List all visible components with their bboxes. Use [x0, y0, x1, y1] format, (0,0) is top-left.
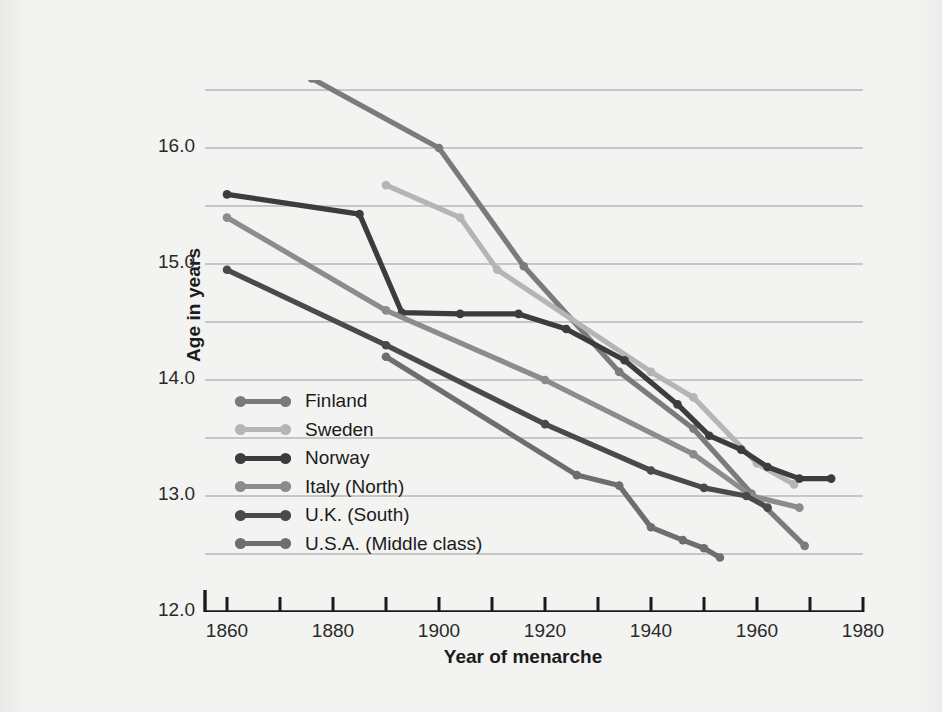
- chart-legend: FinlandSwedenNorwayItaly (North)U.K. (So…: [235, 387, 482, 558]
- y-tick-label: 15.0: [133, 251, 195, 273]
- legend-color-swatch: [235, 423, 291, 437]
- legend-item-label: U.K. (South): [305, 504, 410, 526]
- legend-item-label: Italy (North): [305, 476, 404, 498]
- legend-item-finland[interactable]: Finland: [235, 387, 482, 416]
- x-tick-label: 1960: [717, 620, 797, 642]
- y-tick-label: 16.0: [133, 135, 195, 157]
- legend-color-swatch: [235, 508, 291, 522]
- x-tick-label: 1900: [399, 620, 479, 642]
- axis-layer: [205, 590, 863, 612]
- legend-color-swatch: [235, 537, 291, 551]
- x-tick-label: 1860: [187, 620, 267, 642]
- legend-item-label: Finland: [305, 390, 367, 412]
- x-tick-label: 1920: [505, 620, 585, 642]
- legend-item-label: Sweden: [305, 419, 374, 441]
- y-tick-label: 13.0: [133, 483, 195, 505]
- legend-item-norway[interactable]: Norway: [235, 444, 482, 473]
- legend-color-swatch: [235, 480, 291, 494]
- legend-color-swatch: [235, 451, 291, 465]
- legend-item-label: Norway: [305, 447, 369, 469]
- legend-item-u-k-south[interactable]: U.K. (South): [235, 501, 482, 530]
- plot-area: Age in years Year of menarche 12.013.014…: [176, 80, 870, 612]
- legend-item-u-s-a-middle-class[interactable]: U.S.A. (Middle class): [235, 529, 482, 558]
- figure: Age in years Year of menarche 12.013.014…: [0, 0, 942, 712]
- x-tick-label: 1880: [293, 620, 373, 642]
- y-tick-label: 14.0: [133, 367, 195, 389]
- legend-item-label: U.S.A. (Middle class): [305, 533, 482, 555]
- x-axis-title: Year of menarche: [176, 646, 870, 668]
- x-tick-label: 1940: [611, 620, 691, 642]
- legend-item-italy-north[interactable]: Italy (North): [235, 472, 482, 501]
- legend-item-sweden[interactable]: Sweden: [235, 415, 482, 444]
- x-tick-label: 1980: [823, 620, 903, 642]
- legend-color-swatch: [235, 394, 291, 408]
- y-tick-label: 12.0: [133, 599, 195, 621]
